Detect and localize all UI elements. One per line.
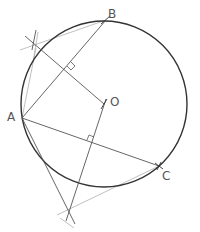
geometry-diagram: A B C O bbox=[0, 0, 200, 232]
point-marks bbox=[101, 16, 163, 170]
bisector-ab bbox=[25, 36, 104, 104]
label-o: O bbox=[110, 95, 119, 109]
main-lines bbox=[22, 20, 159, 224]
right-angle-ab bbox=[67, 62, 75, 70]
bisector-ac bbox=[66, 99, 106, 221]
construction-arc-mark-q bbox=[60, 218, 74, 228]
right-angle-markers bbox=[67, 62, 94, 140]
tick-o bbox=[101, 99, 107, 109]
tick-c-2 bbox=[157, 162, 161, 170]
construction-line-qc bbox=[57, 166, 159, 215]
label-a: A bbox=[7, 110, 16, 124]
label-b: B bbox=[108, 7, 116, 21]
label-c: C bbox=[162, 169, 170, 183]
